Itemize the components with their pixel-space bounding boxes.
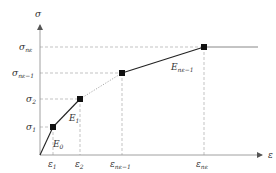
marker-point-1 [50,124,56,130]
x-axis-label: ε [268,150,273,160]
x-tick-eps-n: εnε [196,159,208,170]
segment-e0 [40,127,53,155]
guide-lines [40,47,204,155]
y-tick-sigma-n: σnε [19,42,32,53]
marker-point-n [201,44,207,50]
segment-label-e0: E0 [52,139,64,150]
marker-point-n-1 [119,70,125,76]
marker-point-2 [77,96,83,102]
x-tick-eps-2: ε2 [75,159,84,170]
x-tick-eps-1: ε1 [48,159,57,170]
stress-strain-diagram: σ ε σ1 σ2 σnε−1 σnε ε1 ε2 εnε−1 εnε E0 E… [0,0,276,173]
y-axis-label: σ [35,9,42,19]
y-tick-sigma-1: σ1 [26,122,36,133]
y-tick-sigma-2: σ2 [26,94,36,105]
segment-label-e1: E1 [68,113,79,124]
x-tick-eps-n-1: εnε−1 [110,159,131,170]
segment-label-e-n-1: Enε−1 [170,62,194,73]
y-tick-sigma-n-1: σnε−1 [12,68,34,79]
segment-dotted [80,73,122,99]
